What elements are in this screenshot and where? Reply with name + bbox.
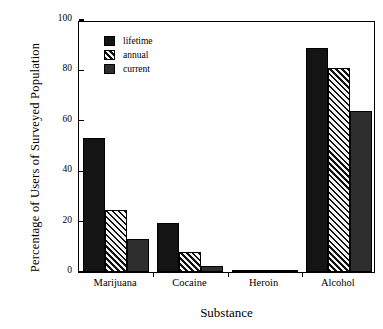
bar-group-marijuana — [83, 22, 149, 272]
y-axis-tick-label: 60 — [63, 114, 73, 125]
x-axis-category-alcohol: Alcohol — [293, 277, 383, 288]
y-axis-tick-label: 40 — [63, 164, 73, 175]
bar-alcohol-annual — [328, 68, 350, 272]
bar-heroin-annual — [254, 270, 276, 272]
bar-alcohol-current — [350, 111, 372, 272]
bar-heroin-lifetime — [232, 270, 254, 272]
bar-heroin-current — [276, 270, 298, 272]
bar-cocaine-annual — [179, 252, 201, 272]
bar-group-cocaine — [157, 22, 223, 272]
bar-cocaine-current — [201, 266, 223, 272]
bar-chart: Percentage of Users of Surveyed Populati… — [0, 0, 383, 329]
y-axis-tick-label: 80 — [63, 63, 73, 74]
bar-marijuana-current — [127, 239, 149, 272]
y-axis-tick-label: 100 — [58, 13, 72, 24]
bar-alcohol-lifetime — [306, 48, 328, 272]
y-axis-tick-mark — [79, 19, 84, 20]
plot-area: lifetime annual current 020406080100 — [78, 21, 375, 273]
y-axis-title: Percentage of Users of Surveyed Populati… — [28, 28, 43, 288]
x-axis-title: Substance — [78, 305, 375, 321]
bar-group-heroin — [232, 22, 298, 272]
y-axis-tick-label: 20 — [63, 215, 73, 226]
y-axis-tick-label: 0 — [67, 265, 72, 276]
bar-group-alcohol — [306, 22, 372, 272]
bar-cocaine-lifetime — [157, 223, 179, 272]
bar-marijuana-annual — [105, 210, 127, 272]
bar-marijuana-lifetime — [83, 138, 105, 272]
